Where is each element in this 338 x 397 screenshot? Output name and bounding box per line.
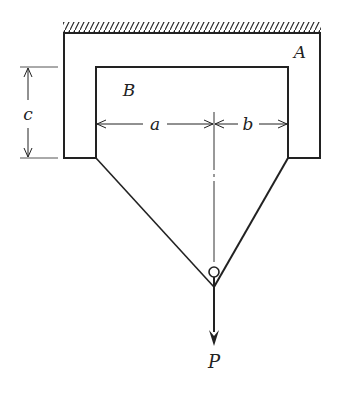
label-dim-c: c <box>23 104 33 124</box>
label-body-a: A <box>292 42 306 62</box>
ceiling-hatch <box>63 22 321 32</box>
plate-b-right-edge <box>214 158 288 287</box>
pin-icon <box>209 267 219 277</box>
label-load-p: P <box>207 351 221 372</box>
label-body-b: B <box>122 80 136 100</box>
plate-b <box>96 158 288 287</box>
load-arrow <box>209 277 219 346</box>
label-dim-a: a <box>150 114 160 134</box>
arrowhead-icon <box>209 330 219 346</box>
diagram-canvas: A B a b c P <box>0 0 338 397</box>
plate-b-left-edge <box>96 158 214 287</box>
label-dim-b: b <box>243 114 254 134</box>
frame-a <box>64 33 320 158</box>
ceiling-support <box>63 22 321 33</box>
